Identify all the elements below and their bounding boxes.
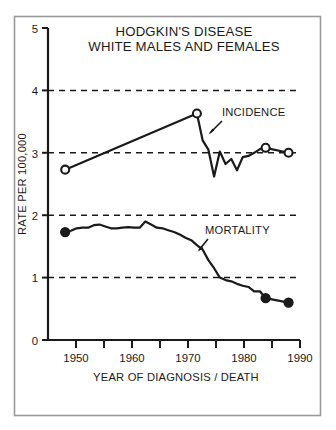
x-tick-label-1990: 1990 — [287, 352, 312, 364]
y-tick-label-2: 2 — [32, 210, 38, 222]
y-tick-label-1: 1 — [32, 272, 38, 284]
hodgkins-disease-line-chart: HODGKIN'S DISEASE WHITE MALES AND FEMALE… — [0, 0, 336, 430]
y-tick-label-5: 5 — [32, 23, 38, 35]
chart-title: HODGKIN'S DISEASE — [115, 24, 252, 39]
y-axis-title: RATE PER 100,000 — [16, 133, 28, 235]
incidence-series-label: INCIDENCE — [222, 106, 285, 118]
y-tick-label-3: 3 — [32, 148, 38, 160]
x-axis-title: YEAR OF DIAGNOSIS / DEATH — [93, 371, 259, 383]
chart-title-group: HODGKIN'S DISEASE WHITE MALES AND FEMALE… — [88, 24, 279, 54]
mortality-marker-1950 — [61, 228, 69, 236]
incidence-marker-1973 — [193, 109, 201, 117]
y-tick-label-4: 4 — [32, 85, 38, 97]
mortality-marker-1989 — [284, 298, 292, 306]
chart-subtitle: WHITE MALES AND FEMALES — [88, 39, 279, 54]
incidence-marker-1985 — [262, 144, 270, 152]
x-tick-label-1960: 1960 — [119, 352, 144, 364]
incidence-marker-1950 — [61, 166, 69, 174]
mortality-series-label: MORTALITY — [205, 224, 270, 236]
x-tick-label-1980: 1980 — [231, 352, 256, 364]
mortality-marker-1985 — [262, 294, 270, 302]
y-tick-label-0: 0 — [32, 335, 38, 347]
figure-root: HODGKIN'S DISEASE WHITE MALES AND FEMALE… — [0, 0, 336, 430]
x-tick-label-1970: 1970 — [175, 352, 200, 364]
x-tick-label-1950: 1950 — [63, 352, 88, 364]
incidence-marker-1989 — [285, 149, 293, 157]
